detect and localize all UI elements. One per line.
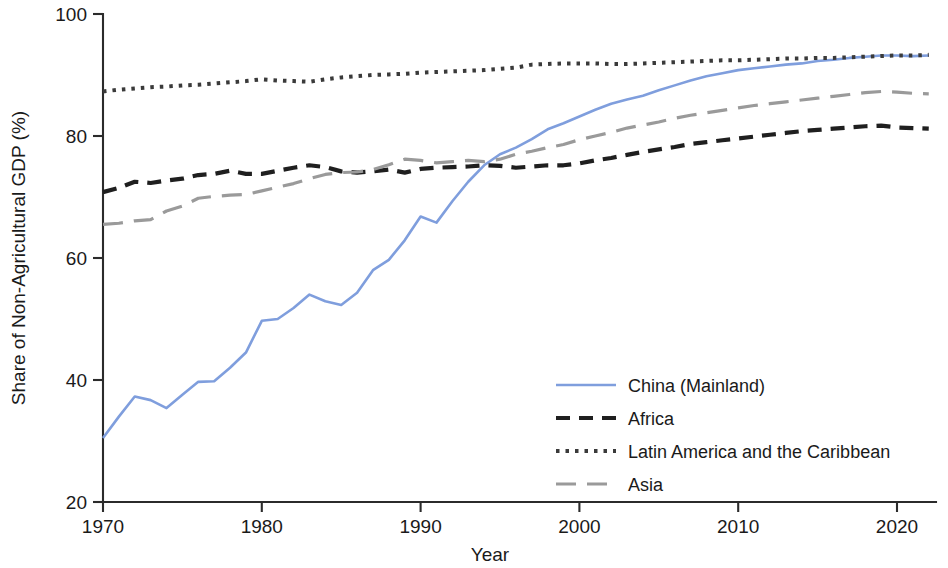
legend-label: Africa xyxy=(628,409,675,429)
legend-item: Asia xyxy=(556,475,664,495)
series-line-3 xyxy=(103,55,929,92)
legend-label: Latin America and the Caribbean xyxy=(628,442,890,462)
legend-item: Latin America and the Caribbean xyxy=(556,442,890,462)
chart-legend: China (Mainland)AfricaLatin America and … xyxy=(556,376,890,495)
x-tick-label: 1970 xyxy=(82,516,124,537)
y-axis: 20406080100 xyxy=(55,4,103,513)
legend-label: Asia xyxy=(628,475,664,495)
legend-item: China (Mainland) xyxy=(556,376,765,396)
x-tick-label: 1980 xyxy=(241,516,283,537)
x-tick-label: 1990 xyxy=(399,516,441,537)
x-tick-label: 2000 xyxy=(558,516,600,537)
legend-item: Africa xyxy=(556,409,675,429)
series-line-4 xyxy=(103,91,929,224)
series-line-1 xyxy=(103,55,929,437)
legend-label: China (Mainland) xyxy=(628,376,765,396)
chart-figure: 20406080100 197019801990200020102020 Chi… xyxy=(0,0,948,568)
x-tick-label: 2020 xyxy=(876,516,918,537)
x-tick-label: 2010 xyxy=(717,516,759,537)
data-series-group xyxy=(103,55,929,438)
y-tick-label: 20 xyxy=(66,492,87,513)
series-line-2 xyxy=(103,126,929,192)
y-tick-label: 60 xyxy=(66,248,87,269)
y-tick-label: 80 xyxy=(66,126,87,147)
y-axis-title: Share of Non-Agricultural GDP (%) xyxy=(8,111,29,405)
y-tick-label: 100 xyxy=(55,4,87,25)
x-axis: 197019801990200020102020 xyxy=(82,502,936,537)
y-tick-label: 40 xyxy=(66,370,87,391)
line-chart-canvas: 20406080100 197019801990200020102020 Chi… xyxy=(0,0,948,568)
x-axis-title: Year xyxy=(471,544,510,565)
